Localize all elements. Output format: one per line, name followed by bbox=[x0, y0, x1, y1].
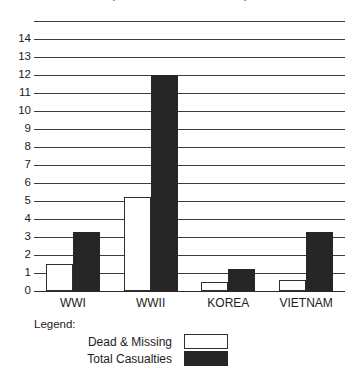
y-axis-tick-label: 12 bbox=[5, 69, 31, 81]
bar-wwi-dead-missing bbox=[46, 264, 73, 291]
gridline bbox=[34, 129, 345, 130]
gridline bbox=[34, 165, 345, 166]
gridline bbox=[34, 183, 345, 184]
y-axis-tick-label: 13 bbox=[5, 51, 31, 63]
category-label-wwi: WWI bbox=[34, 296, 112, 310]
y-axis-tick-label: 3 bbox=[5, 231, 31, 243]
category-label-vietnam: VIETNAM bbox=[267, 296, 345, 310]
gridline bbox=[34, 93, 345, 94]
gridline bbox=[34, 111, 345, 112]
y-axis-tick-label: 6 bbox=[5, 177, 31, 189]
y-axis-tick-label: 5 bbox=[5, 195, 31, 207]
legend-swatch-dark bbox=[184, 351, 228, 366]
bar-wwii-dead-missing bbox=[124, 197, 151, 291]
chart-title: (in hundreds of thousands) bbox=[0, 0, 359, 2]
gridline bbox=[34, 21, 345, 22]
legend-label-total-casualties: Total Casualties bbox=[52, 352, 172, 366]
legend-row: Total Casualties bbox=[34, 351, 274, 367]
bar-vietnam-total-casualties bbox=[306, 232, 333, 291]
y-axis-tick-label: 4 bbox=[5, 213, 31, 225]
gridline bbox=[34, 201, 345, 202]
gridline bbox=[34, 75, 345, 76]
y-axis-tick-label: 14 bbox=[5, 33, 31, 45]
category-label-wwii: WWII bbox=[112, 296, 190, 310]
x-axis-baseline bbox=[34, 291, 345, 292]
y-axis-tick-label: 10 bbox=[5, 105, 31, 117]
bar-korea-total-casualties bbox=[228, 269, 255, 291]
bar-vietnam-dead-missing bbox=[279, 280, 306, 291]
legend-heading: Legend: bbox=[34, 318, 274, 331]
legend-row: Dead & Missing bbox=[34, 334, 274, 350]
y-axis-tick-label: 2 bbox=[5, 249, 31, 261]
y-axis-tick-label: 1 bbox=[5, 267, 31, 279]
category-label-korea: KOREA bbox=[190, 296, 268, 310]
bar-korea-dead-missing bbox=[201, 282, 228, 291]
y-axis-tick-label: 7 bbox=[5, 159, 31, 171]
gridline bbox=[34, 39, 345, 40]
y-axis-tick-label: 11 bbox=[5, 87, 31, 99]
gridline bbox=[34, 57, 345, 58]
plot-area bbox=[34, 21, 345, 291]
y-axis-tick-label: 0 bbox=[5, 285, 31, 297]
chart-legend: Legend: Dead & MissingTotal Casualties bbox=[34, 318, 274, 368]
y-axis-tick-label: 8 bbox=[5, 141, 31, 153]
legend-swatch-light bbox=[184, 334, 228, 349]
y-axis-tick-labels: 14131211109876543210 bbox=[0, 21, 31, 291]
legend-label-dead-missing: Dead & Missing bbox=[52, 335, 172, 349]
gridline bbox=[34, 219, 345, 220]
gridline bbox=[34, 147, 345, 148]
bar-wwi-total-casualties bbox=[73, 232, 100, 291]
bar-wwii-total-casualties bbox=[151, 75, 178, 291]
y-axis-tick-label: 9 bbox=[5, 123, 31, 135]
